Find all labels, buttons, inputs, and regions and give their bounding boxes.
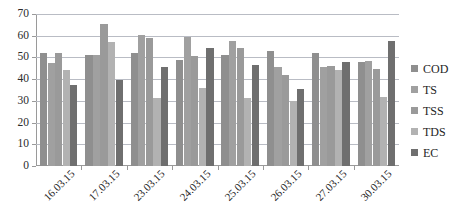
bar	[48, 63, 55, 166]
legend-item-label: TDS	[423, 126, 446, 138]
bar	[176, 60, 183, 166]
bar	[274, 67, 281, 166]
bar	[267, 51, 274, 166]
bar	[116, 80, 123, 166]
y-axis-tick-label: 30	[18, 95, 30, 107]
y-axis-tick-label: 20	[18, 117, 30, 129]
bar	[199, 88, 206, 166]
legend-item[interactable]: TSS	[411, 100, 472, 121]
x-axis-tick-label: 17.03.15	[87, 168, 122, 203]
bar	[206, 48, 213, 166]
bar-group	[36, 14, 81, 166]
legend-item-label: TSS	[423, 105, 444, 117]
bar	[380, 97, 387, 166]
bar	[290, 101, 297, 166]
y-axis-tick-label: 40	[18, 73, 30, 85]
bar	[335, 70, 342, 166]
bar	[63, 70, 70, 166]
x-axis-tick-label: 23.03.15	[132, 168, 167, 203]
y-axis-tick-label: 50	[18, 52, 30, 64]
y-axis-tick-label: 70	[18, 8, 30, 20]
x-axis-tick-label: 26.03.15	[268, 168, 303, 203]
bar	[131, 53, 138, 166]
legend-swatch-icon	[411, 128, 418, 135]
legend-swatch-icon	[411, 107, 418, 114]
bar	[138, 35, 145, 166]
bar	[320, 67, 327, 166]
bar-group	[218, 14, 263, 166]
chart-legend: CODTSTSSTDSEC	[411, 58, 472, 163]
bar	[100, 24, 107, 166]
bar-group	[127, 14, 172, 166]
bar	[161, 67, 168, 166]
bar-chart: 010203040506070 16.03.1517.03.1523.03.15…	[0, 0, 472, 224]
bar	[312, 53, 319, 166]
bar	[55, 53, 62, 166]
legend-item[interactable]: COD	[411, 58, 472, 79]
x-axis-tick-label: 30.03.15	[359, 168, 394, 203]
bar	[70, 85, 77, 166]
bar	[244, 98, 251, 166]
bar-group	[263, 14, 308, 166]
bar	[252, 65, 259, 166]
bar	[229, 41, 236, 166]
bar	[221, 55, 228, 166]
legend-item[interactable]: TDS	[411, 121, 472, 142]
bar	[388, 41, 395, 166]
bar	[191, 56, 198, 166]
legend-item-label: TS	[423, 84, 437, 96]
legend-swatch-icon	[411, 65, 418, 72]
y-axis-tick-label: 10	[18, 139, 30, 151]
x-axis-tick-label: 24.03.15	[178, 168, 213, 203]
x-axis-tick-label: 27.03.15	[314, 168, 349, 203]
plot-area: 010203040506070	[36, 14, 399, 166]
bar	[93, 55, 100, 166]
bar	[108, 42, 115, 166]
legend-swatch-icon	[411, 86, 418, 93]
y-axis-tick-label: 60	[18, 30, 30, 42]
bar	[327, 66, 334, 166]
legend-item[interactable]: TS	[411, 79, 472, 100]
bar-group	[308, 14, 353, 166]
legend-item[interactable]: EC	[411, 142, 472, 163]
bar	[237, 48, 244, 166]
bar	[282, 75, 289, 166]
x-axis-tick-label: 25.03.15	[223, 168, 258, 203]
legend-item-label: COD	[423, 63, 448, 75]
bar-group	[172, 14, 217, 166]
legend-swatch-icon	[411, 149, 418, 156]
y-axis-tick-label: 0	[23, 160, 29, 172]
bar	[358, 62, 365, 166]
bar	[153, 98, 160, 166]
bar	[40, 53, 47, 166]
bar	[365, 61, 372, 166]
bar	[342, 62, 349, 166]
bar	[184, 37, 191, 166]
bar-group	[81, 14, 126, 166]
bar	[297, 89, 304, 166]
bar	[85, 55, 92, 166]
bar-groups	[36, 14, 399, 166]
bar	[146, 38, 153, 166]
bar	[373, 69, 380, 166]
legend-item-label: EC	[423, 147, 438, 159]
x-axis-labels: 16.03.1517.03.1523.03.1524.03.1525.03.15…	[36, 166, 399, 224]
x-axis-tick-label: 16.03.15	[41, 168, 76, 203]
bar-group	[354, 14, 399, 166]
